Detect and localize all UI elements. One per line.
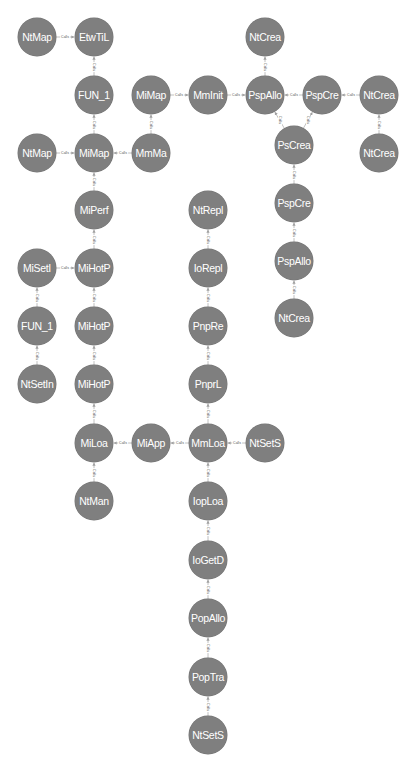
edge-label: Calls — [60, 266, 70, 270]
edge-label: Calls — [92, 351, 96, 361]
edge-label: Calls — [175, 441, 185, 445]
graph-node[interactable]: MiPerf — [75, 191, 113, 229]
edge-label: Calls — [306, 116, 310, 126]
edge-label: Calls — [35, 351, 39, 361]
edge-label: Calls — [206, 526, 210, 536]
edge-label: Calls — [206, 702, 210, 712]
edge-label: Calls — [92, 293, 96, 303]
graph-node[interactable]: PnprL — [189, 365, 227, 403]
edge-label: Calls — [346, 93, 356, 97]
edge-label: Calls — [278, 116, 282, 126]
edge-label: Calls — [92, 235, 96, 245]
edge-label: Calls — [92, 409, 96, 419]
graph-node[interactable]: MiHotP — [75, 249, 113, 287]
edge-label: Calls — [206, 585, 210, 595]
graph-node[interactable]: NtCrea — [360, 134, 398, 172]
graph-node[interactable]: NtSetS — [189, 716, 227, 754]
edge-label: Calls — [206, 643, 210, 653]
graph-node[interactable]: FUN_1 — [75, 76, 113, 114]
graph-node[interactable]: IopLoa — [189, 482, 227, 520]
edge-label: Calls — [206, 351, 210, 361]
graph-node[interactable]: PspCre — [303, 76, 341, 114]
edge-label: Calls — [292, 228, 296, 238]
edge-label: Calls — [149, 120, 153, 130]
graph-node[interactable]: MiHotP — [75, 307, 113, 345]
graph-node[interactable]: NtCrea — [246, 18, 284, 56]
graph-node[interactable]: NtCrea — [360, 76, 398, 114]
graph-node[interactable]: PspCre — [275, 184, 313, 222]
graph-node[interactable]: MmInit — [189, 76, 227, 114]
graph-node[interactable]: MiMap — [75, 134, 113, 172]
edge-label: Calls — [35, 293, 39, 303]
edge-label: Calls — [206, 235, 210, 245]
call-graph-canvas: NtMapEtwTiLFUN_1MiMapMmInitPspAlloNtCrea… — [0, 0, 413, 766]
edge-label: Calls — [92, 120, 96, 130]
graph-node[interactable]: NtMan — [75, 482, 113, 520]
graph-node[interactable]: MmLoa — [189, 424, 227, 462]
graph-node[interactable]: MiLoa — [75, 424, 113, 462]
graph-node[interactable]: NtCrea — [275, 299, 313, 337]
edge-label: Calls — [263, 62, 267, 72]
edge-label: Calls — [292, 170, 296, 180]
edge-label: Calls — [232, 441, 242, 445]
edge-label: Calls — [231, 93, 241, 97]
graph-node[interactable]: NtMap — [18, 18, 56, 56]
edge-label: Calls — [292, 285, 296, 295]
graph-node[interactable]: FUN_1 — [18, 307, 56, 345]
graph-node[interactable]: IoRepl — [189, 249, 227, 287]
graph-node[interactable]: EtwTiL — [75, 18, 113, 56]
graph-node[interactable]: NtSetIn — [18, 365, 56, 403]
graph-node[interactable]: MiSetI — [18, 249, 56, 287]
graph-node[interactable]: IoGetD — [189, 541, 227, 579]
edge-label: Calls — [92, 62, 96, 72]
edge-label: Calls — [206, 409, 210, 419]
graph-node[interactable]: PspAllo — [275, 242, 313, 280]
graph-node[interactable]: PnpRe — [189, 307, 227, 345]
graph-node[interactable]: MiHotP — [75, 365, 113, 403]
graph-node[interactable]: NtMap — [18, 134, 56, 172]
edge-label: Calls — [206, 293, 210, 303]
edge-label: Calls — [92, 177, 96, 187]
graph-node[interactable]: MiMap — [132, 76, 170, 114]
edge-label: Calls — [92, 468, 96, 478]
graph-node[interactable]: NtRepl — [189, 191, 227, 229]
edge-label: Calls — [60, 35, 70, 39]
graph-node[interactable]: MiApp — [132, 424, 170, 462]
edge-label: Calls — [60, 151, 70, 155]
graph-node[interactable]: NtSetS — [246, 424, 284, 462]
graph-node[interactable]: PopTra — [189, 658, 227, 696]
edge-label: Calls — [118, 441, 128, 445]
edge-label: Calls — [206, 468, 210, 478]
graph-node[interactable]: PspAllo — [246, 76, 284, 114]
edge-label: Calls — [377, 120, 381, 130]
graph-node[interactable]: PopAllo — [189, 599, 227, 637]
edge-label: Calls — [118, 151, 128, 155]
edge-label: Calls — [289, 93, 299, 97]
graph-node[interactable]: MmMa — [132, 134, 170, 172]
graph-node[interactable]: PsCrea — [275, 126, 313, 164]
edge-label: Calls — [174, 93, 184, 97]
